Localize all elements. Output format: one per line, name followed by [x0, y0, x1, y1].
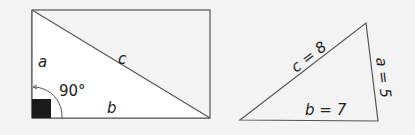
- diagram-canvas: a c 90° b c = 8 a = 5 b = 7: [0, 0, 415, 135]
- label-angle: 90°: [59, 82, 86, 100]
- label-side-a: a = 5: [372, 56, 395, 99]
- right-triangle-figure: a c 90° b: [32, 10, 210, 118]
- label-hypotenuse-c: c: [118, 50, 127, 68]
- label-side-b: b: [107, 99, 117, 117]
- label-side-b: b = 7: [305, 101, 347, 119]
- scalene-triangle-figure: c = 8 a = 5 b = 7: [240, 23, 395, 121]
- label-side-c: c = 8: [287, 38, 330, 77]
- right-angle-marker: [32, 99, 51, 118]
- label-side-a: a: [38, 53, 47, 71]
